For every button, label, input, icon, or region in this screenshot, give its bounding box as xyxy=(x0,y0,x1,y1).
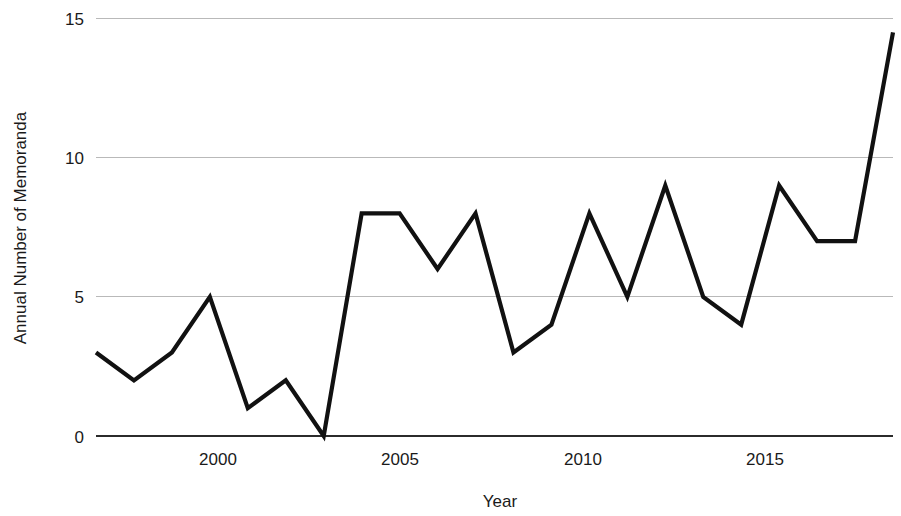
chart-figure: 15 10 5 0 2000 2005 2010 2015 Year Annua… xyxy=(0,0,901,516)
chart-background xyxy=(0,0,901,516)
y-tick-label-5: 5 xyxy=(75,288,84,307)
y-tick-label-15: 15 xyxy=(65,10,84,29)
x-tick-label-2015: 2015 xyxy=(746,450,784,469)
y-tick-label-0: 0 xyxy=(75,428,84,447)
x-tick-label-2005: 2005 xyxy=(381,450,419,469)
y-axis-title: Annual Number of Memoranda xyxy=(11,111,30,344)
x-tick-label-2000: 2000 xyxy=(199,450,237,469)
line-chart: 15 10 5 0 2000 2005 2010 2015 Year Annua… xyxy=(0,0,901,516)
x-tick-label-2010: 2010 xyxy=(564,450,602,469)
x-axis-title: Year xyxy=(483,492,518,511)
y-tick-label-10: 10 xyxy=(65,149,84,168)
